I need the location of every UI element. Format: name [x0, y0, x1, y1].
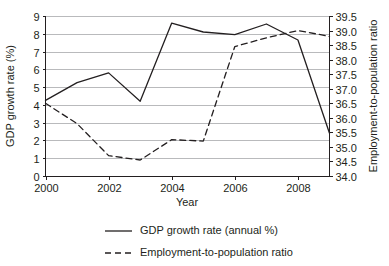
right-tick-label: 38.0: [336, 55, 357, 67]
left-tick-label: 2: [33, 135, 39, 147]
right-tick-label: 39.0: [336, 26, 357, 38]
x-tick-label: 2008: [286, 182, 310, 194]
left-tick-label: 9: [33, 11, 39, 23]
left-tick-label: 7: [33, 47, 39, 59]
left-tick-label: 0: [33, 171, 39, 183]
left-tick-label: 6: [33, 64, 39, 76]
x-tick-label: 2000: [34, 182, 58, 194]
x-axis-title: Year: [176, 196, 199, 208]
legend-label-gdp-growth-rate: GDP growth rate (annual %): [140, 224, 278, 236]
legend-label-employment-ratio: Employment-to-population ratio: [140, 246, 293, 258]
left-tick-label: 1: [33, 153, 39, 165]
right-tick-label: 36.5: [336, 98, 357, 110]
left-tick-label: 4: [33, 100, 39, 112]
right-tick-label: 35.5: [336, 127, 357, 139]
right-tick-label: 36.0: [336, 113, 357, 125]
right-tick-label: 37.5: [336, 69, 357, 81]
left-tick-label: 8: [33, 29, 39, 41]
right-tick-label: 39.5: [336, 11, 357, 23]
right-tick-label: 34.5: [336, 156, 357, 168]
right-tick-label: 38.5: [336, 40, 357, 52]
right-axis-title: Employment-to-population ratio: [367, 20, 379, 173]
left-axis-title: GDP growth rate (%): [4, 45, 16, 147]
right-tick-label: 34.0: [336, 171, 357, 183]
x-tick-label: 2004: [160, 182, 184, 194]
right-tick-label: 35.0: [336, 142, 357, 154]
right-tick-label: 37.0: [336, 84, 357, 96]
left-tick-label: 5: [33, 82, 39, 94]
dual-axis-line-chart: 0123456789 34.034.535.035.536.036.537.03…: [0, 0, 389, 266]
chart-figure: 0123456789 34.034.535.035.536.036.537.03…: [0, 0, 389, 266]
left-tick-label: 3: [33, 118, 39, 130]
x-tick-label: 2006: [223, 182, 247, 194]
x-tick-label: 2002: [97, 182, 121, 194]
